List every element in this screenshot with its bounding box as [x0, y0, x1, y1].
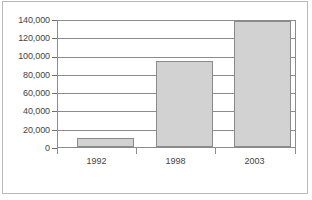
bar-chart: 140,000 120,000 100,000 80,000 60,000 40…	[0, 0, 312, 200]
y-axis-label-100000: 100,000	[0, 52, 50, 61]
x-axis-label-2003: 2003	[223, 156, 286, 167]
bar-1998[interactable]	[156, 61, 213, 147]
x-axis-tick-1	[136, 148, 137, 154]
x-axis-labels: 1992 1998 2003	[57, 156, 296, 170]
x-axis-tick-2	[215, 148, 216, 154]
y-axis-label-20000: 20,000	[0, 126, 50, 135]
bars	[58, 21, 295, 147]
y-axis-label-140000: 140,000	[0, 16, 50, 25]
x-axis-tick-start	[57, 148, 58, 154]
x-axis-label-1992: 1992	[65, 156, 128, 167]
x-axis-tick-end	[295, 148, 296, 154]
y-axis-label-60000: 60,000	[0, 89, 50, 98]
bar-2003[interactable]	[234, 21, 291, 147]
x-axis-ticks	[57, 148, 296, 155]
plot-area	[57, 20, 296, 148]
y-axis-label-0: 0	[0, 144, 50, 153]
x-axis-label-1998: 1998	[144, 156, 207, 167]
y-axis-label-80000: 80,000	[0, 71, 50, 80]
y-axis-label-40000: 40,000	[0, 107, 50, 116]
y-axis-label-120000: 120,000	[0, 34, 50, 43]
y-axis-labels: 140,000 120,000 100,000 80,000 60,000 40…	[0, 0, 50, 200]
bar-1992[interactable]	[77, 138, 134, 147]
